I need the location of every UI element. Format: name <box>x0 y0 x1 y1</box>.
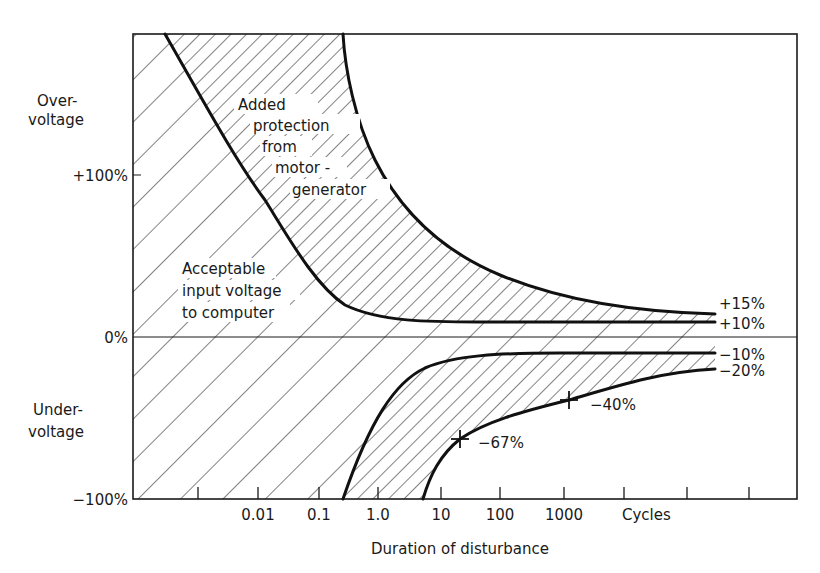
added-protection-line-5: generator <box>292 181 367 199</box>
y-tick-label-minus100: −100% <box>73 491 128 509</box>
acceptable-line-1: Acceptable <box>182 260 265 278</box>
over-voltage-label-1: Over- <box>37 92 78 110</box>
marker-label-minus67: −67% <box>478 434 524 452</box>
y-tick-label-plus100: +100% <box>73 167 128 185</box>
x-tick-label-1: 1.0 <box>366 506 390 524</box>
end-label-plus15: +15% <box>719 295 765 313</box>
acceptable-line-3: to computer <box>182 304 275 322</box>
voltage-tolerance-chart: Over- voltage +100% 0% Under- voltage −1… <box>0 0 820 573</box>
marker-label-minus40: −40% <box>590 396 636 414</box>
x-tick-label-1000: 1000 <box>545 506 583 524</box>
under-voltage-label-2: voltage <box>28 423 84 441</box>
x-tick-label-100: 100 <box>486 506 515 524</box>
x-tick-label-10: 10 <box>431 506 450 524</box>
x-tick-label-0.01: 0.01 <box>241 506 274 524</box>
over-voltage-label-2: voltage <box>28 111 84 129</box>
added-protection-line-1: Added <box>238 96 286 114</box>
added-protection-line-4: motor - <box>275 159 330 177</box>
under-voltage-label-1: Under- <box>33 401 83 419</box>
x-unit-label: Cycles <box>622 506 671 524</box>
acceptable-line-2: input voltage <box>182 282 281 300</box>
y-tick-label-zero: 0% <box>104 329 128 347</box>
added-protection-line-3: from <box>262 138 297 156</box>
x-axis-title: Duration of disturbance <box>371 540 549 558</box>
end-label-plus10: +10% <box>719 315 765 333</box>
x-tick-label-0.1: 0.1 <box>307 506 331 524</box>
added-protection-line-2: protection <box>253 117 330 135</box>
end-label-minus20: −20% <box>719 362 765 380</box>
